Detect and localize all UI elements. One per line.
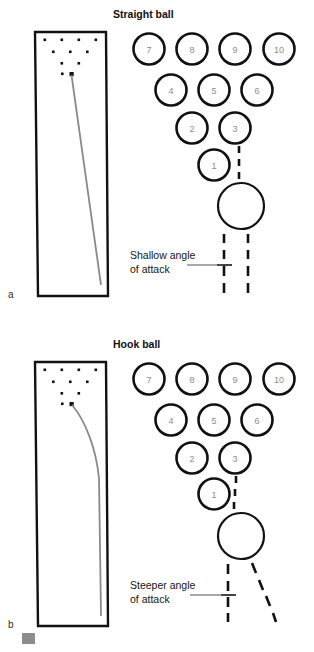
pin-2-label: 2	[189, 124, 194, 134]
lane-outline-b	[35, 362, 108, 626]
attack-dash-right	[259, 580, 263, 590]
pin-9-label: 9	[232, 45, 237, 55]
pin-3-label: 3	[232, 124, 237, 134]
pin-4-label: 4	[168, 86, 173, 96]
lane-pin-dot	[78, 392, 81, 395]
lane-pin-dot	[44, 39, 47, 42]
lane-pin-dot	[61, 62, 64, 65]
lane-pin-dot	[69, 381, 72, 384]
panel-b-annotation: Steeper angle of attack	[130, 579, 225, 605]
lane-pin-dot	[95, 39, 98, 42]
bowling-ball-b	[218, 513, 264, 559]
lane-pin-dot	[78, 39, 81, 42]
pin-10-label: 10	[274, 375, 284, 385]
pin-8-label: 8	[189, 375, 194, 385]
attack-dash-right	[266, 596, 270, 606]
lane-pin-dot	[61, 39, 64, 42]
lane-pin-dot	[61, 403, 64, 406]
annotation-a-line2: of attack	[130, 263, 170, 275]
lane-pin-dot	[61, 73, 64, 76]
panel-a-pin-rack: 7 8 9 10 4 5 6 2 3 1	[134, 34, 295, 181]
lane-pin-dot	[95, 369, 98, 372]
panel-a-title: Straight ball	[113, 8, 174, 20]
footer-color-swatch	[22, 633, 35, 644]
lane-pin-dot	[78, 369, 81, 372]
panel-b-lane	[35, 362, 108, 626]
lane-pin-dot	[69, 51, 72, 54]
pin-1-label: 1	[211, 161, 216, 171]
lane-pin-dot	[52, 51, 55, 54]
panel-a-attack-lines	[217, 234, 248, 293]
pin-5-label: 5	[211, 86, 216, 96]
pin-7-label: 7	[146, 375, 151, 385]
panel-b-letter: b	[8, 619, 14, 630]
attack-dash-right	[252, 563, 256, 573]
lane-pin-dot	[86, 51, 89, 54]
panel-a-letter: a	[8, 289, 14, 300]
pin-1-label: 1	[211, 490, 216, 500]
pin-10-label: 10	[274, 45, 284, 55]
panel-a: Straight ball a	[8, 8, 295, 300]
bowling-ball-a	[218, 183, 264, 229]
lane-pin-dot	[61, 369, 64, 372]
panel-b-title: Hook ball	[113, 338, 160, 350]
panel-b-pin-rack: 7 8 9 10 4 5 6 2 3 1	[134, 364, 295, 510]
lane-pin-dot	[52, 381, 55, 384]
pin-5-label: 5	[211, 416, 216, 426]
pin-6-label: 6	[254, 86, 259, 96]
panel-b-entry-dashes	[234, 476, 236, 509]
panel-b-attack-lines	[221, 563, 276, 622]
pin-2-label: 2	[189, 454, 194, 464]
panel-b: Hook ball b 7	[8, 338, 295, 630]
pin-4-label: 4	[168, 416, 173, 426]
lane-pin-dot	[61, 392, 64, 395]
lane-pin-dot	[86, 381, 89, 384]
pin-3-label: 3	[232, 454, 237, 464]
annotation-a-line1: Shallow angle	[130, 249, 196, 261]
pin-8-label: 8	[189, 45, 194, 55]
attack-dash-right	[273, 613, 276, 622]
pin-9-label: 9	[232, 375, 237, 385]
panel-a-annotation: Shallow angle of attack	[130, 249, 221, 275]
pin-6-label: 6	[254, 416, 259, 426]
lane-pin-dot	[78, 62, 81, 65]
lane-pin-dot	[44, 369, 47, 372]
panel-a-lane	[35, 32, 108, 296]
bowling-approach-figure: Straight ball a	[0, 0, 314, 652]
pin-7-label: 7	[146, 45, 151, 55]
annotation-b-line2: of attack	[130, 593, 170, 605]
annotation-b-line1: Steeper angle	[130, 579, 196, 591]
